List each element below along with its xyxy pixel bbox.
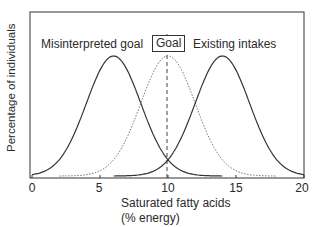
x-axis-label-line2: (% energy) — [121, 212, 180, 224]
x-tick-10: 10 — [161, 182, 174, 194]
misinterpreted-goal-curve — [32, 56, 222, 176]
x-axis-label-line1: Saturated fatty acids — [121, 197, 230, 209]
goal-label: Goal — [152, 35, 185, 52]
x-tick-20: 20 — [295, 182, 308, 194]
misinterpreted-goal-label: Misinterpreted goal — [41, 38, 143, 50]
y-axis-label: Percentage of individuals — [6, 24, 18, 153]
x-tick-15: 15 — [229, 182, 242, 194]
x-tick-5: 5 — [96, 182, 103, 194]
x-tick-0: 0 — [29, 182, 36, 194]
existing-intakes-curve — [114, 56, 304, 176]
goal-curve — [59, 56, 277, 176]
existing-intakes-label: Existing intakes — [193, 38, 276, 50]
